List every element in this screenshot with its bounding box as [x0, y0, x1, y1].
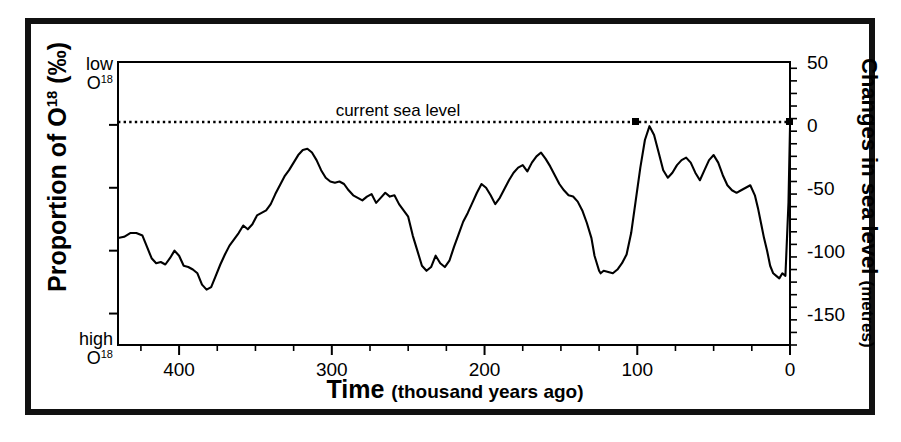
- y-axis-left-title: Proportion of O18 (‰): [43, 42, 71, 292]
- y-axis-right-title: Changes in sea level (metres): [857, 58, 882, 348]
- y-axis-tick-labels: 500-50-100-150: [807, 52, 845, 325]
- x-axis-ticks: [141, 345, 790, 355]
- y-axis-right-ticks: [790, 68, 797, 345]
- last-interglacial-peak-marker: [632, 118, 639, 125]
- x-tick-label: 0: [785, 359, 796, 380]
- sea-level-chart: current sea level 4003002001000 500-50-1…: [0, 0, 901, 442]
- y-tick-label: -100: [807, 241, 845, 262]
- x-tick-label: 400: [163, 359, 195, 380]
- sea-level-curve: [118, 126, 790, 290]
- figure-page: current sea level 4003002001000 500-50-1…: [0, 0, 901, 442]
- figure-container: current sea level 4003002001000 500-50-1…: [0, 0, 901, 442]
- y-axis-low-label: low: [86, 54, 114, 74]
- y-tick-label: 0: [807, 115, 818, 136]
- present-day-marker: [786, 118, 793, 125]
- x-tick-label: 200: [469, 359, 501, 380]
- x-axis-tick-labels: 4003002001000: [163, 359, 795, 380]
- y-tick-label: 50: [807, 52, 828, 73]
- x-axis-title: Time (thousand years ago): [326, 375, 583, 403]
- y-tick-label: -150: [807, 304, 845, 325]
- x-tick-label: 100: [621, 359, 653, 380]
- y-axis-high-symbol: O18: [87, 348, 113, 368]
- y-axis-left-ticks: [109, 125, 118, 314]
- y-axis-high-label: high: [79, 329, 113, 349]
- y-tick-label: -50: [807, 178, 834, 199]
- current-sea-level-label: current sea level: [336, 101, 461, 120]
- y-axis-low-symbol: O18: [87, 73, 113, 93]
